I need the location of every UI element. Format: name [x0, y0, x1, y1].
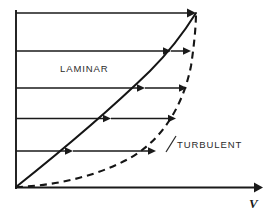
laminar-profile-curve: [16, 13, 196, 187]
velocity-profile-figure: LAMINAR TURBULENT V: [0, 0, 271, 216]
boundary-layer-diagram: LAMINAR TURBULENT V: [0, 0, 271, 216]
turbulent-region-label: TURBULENT: [177, 139, 242, 150]
velocity-vectors-group: [16, 9, 196, 155]
turbulent-label-leader-line: [166, 136, 176, 152]
vector-arrow-icon-turbulent-2: [183, 47, 191, 55]
velocity-vector-row-5: [16, 147, 156, 155]
vector-arrow-icon-turbulent-5: [148, 147, 156, 155]
laminar-region-label: LAMINAR: [60, 63, 109, 74]
turbulent-profile-curve: [16, 13, 196, 187]
vector-arrow-icon-laminar-4: [103, 115, 111, 123]
velocity-vector-row-3: [16, 84, 187, 92]
vector-arrow-icon-laminar-3: [137, 84, 145, 92]
axes-group: [16, 11, 263, 193]
velocity-axis-arrow-icon: [254, 183, 263, 193]
vector-arrow-icon-laminar-5: [65, 147, 73, 155]
velocity-vector-row-2: [16, 47, 191, 55]
velocity-axis-label: V: [249, 196, 259, 211]
velocity-vector-row-1: [16, 9, 196, 18]
